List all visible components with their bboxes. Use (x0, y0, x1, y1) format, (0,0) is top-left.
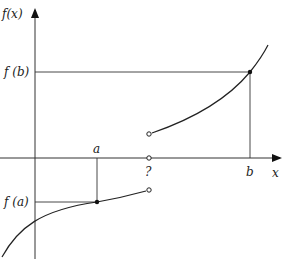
diagram-canvas: f(x) x f (b) f (a) a b ? (0, 0, 283, 259)
a-point (95, 200, 99, 204)
x-axis-label: x (272, 166, 279, 180)
y-axis-label: f(x) (1, 7, 23, 21)
right-curve (152, 45, 268, 133)
fb-label: f (b) (3, 65, 30, 79)
open-axis-point (147, 156, 151, 160)
b-label: b (246, 165, 254, 179)
b-point (248, 70, 252, 74)
open-lower-point (147, 188, 151, 192)
fa-label: f (a) (3, 195, 29, 209)
discontinuity-label: ? (145, 165, 152, 179)
a-label: a (93, 142, 100, 156)
open-upper-point (147, 132, 151, 136)
